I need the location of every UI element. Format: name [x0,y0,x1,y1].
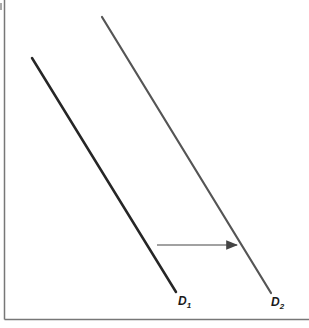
d2-label: D2 [271,295,285,311]
d1-label-subscript: 1 [187,301,192,310]
d1-label-main: D [178,294,187,308]
demand-shift-diagram: D1 D2 [0,0,309,328]
demand-curve-d2 [102,17,271,293]
demand-curve-d1 [32,58,176,292]
d1-label: D1 [178,294,192,310]
d2-label-subscript: 2 [279,302,285,311]
d2-label-main: D [271,295,280,309]
